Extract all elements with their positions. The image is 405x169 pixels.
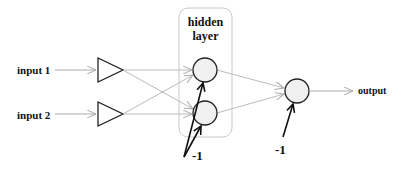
bias-arrow-out <box>283 104 293 137</box>
hidden-bias-label: -1 <box>192 148 203 163</box>
connection-in1-h2 <box>123 70 193 109</box>
input-1-label: input 1 <box>17 64 50 76</box>
output-neuron <box>285 79 309 103</box>
diagram-canvas: hidden layer input 1 input 2 output -1 <box>0 0 405 169</box>
output-label: output <box>358 85 387 96</box>
hidden-neuron-2 <box>193 101 217 125</box>
hidden-layer-label-line1: hidden <box>188 15 224 29</box>
input-2-label: input 2 <box>17 109 51 121</box>
connection-h1-out <box>217 70 284 88</box>
hidden-neuron-1 <box>193 58 217 82</box>
input-2-buffer-icon <box>98 102 123 126</box>
network-diagram: hidden layer input 1 input 2 output -1 <box>0 0 405 169</box>
output-bias-label: -1 <box>275 142 286 157</box>
connection-in2-h1 <box>123 75 193 114</box>
hidden-layer-label-line2: layer <box>193 29 220 43</box>
connection-h2-out <box>217 94 284 113</box>
input-1-buffer-icon <box>98 58 123 82</box>
